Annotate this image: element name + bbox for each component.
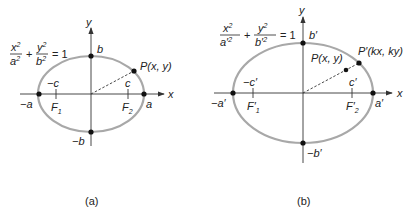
point-b-prime — [300, 40, 305, 45]
caption-b: (b) — [297, 195, 310, 207]
point-b — [88, 53, 93, 58]
figure-b: x2 a′2 + y2 b′2 = 1 y x b′ −b′ a′ −a′ P(… — [211, 4, 403, 207]
label-a-prime: a′ — [375, 97, 384, 109]
label-b: b — [97, 43, 103, 55]
caption-a: (a) — [85, 195, 98, 207]
point-a — [141, 91, 146, 96]
label-a: a — [146, 98, 152, 110]
y-axis-label-a: y — [85, 16, 93, 28]
ellipse-figures: x2 a2 + y2 b2 = 1 y x b −b a −a P(x, y) … — [0, 0, 414, 217]
point-p — [344, 68, 349, 73]
svg-text:+: + — [26, 48, 32, 60]
point-p-prime — [356, 60, 361, 65]
point-neg-a — [36, 91, 41, 96]
label-f2-prime: F′2 — [346, 100, 359, 114]
label-p-prime: P′(kx, ky) — [358, 45, 403, 57]
svg-text:= 1: = 1 — [280, 29, 296, 41]
label-c-prime: c′ — [349, 76, 358, 88]
point-neg-b — [88, 129, 93, 134]
point-a-prime — [370, 90, 375, 95]
label-b-prime: b′ — [309, 29, 318, 41]
svg-text:= 1: = 1 — [52, 48, 68, 60]
svg-text:b′2: b′2 — [255, 36, 267, 48]
point-neg-b-prime — [300, 140, 305, 145]
label-neg-a: −a — [20, 98, 33, 110]
y-axis-label-b: y — [298, 4, 306, 16]
label-p: P(x, y) — [311, 52, 343, 64]
svg-text:b2: b2 — [36, 55, 46, 67]
label-neg-b-prime: −b′ — [307, 147, 323, 159]
label-f1: F1 — [51, 101, 62, 115]
svg-text:x2: x2 — [10, 41, 21, 53]
svg-text:x2: x2 — [222, 22, 233, 34]
label-neg-c-prime: −c′ — [243, 76, 258, 88]
label-f1-prime: F′1 — [247, 100, 260, 114]
point-p — [131, 68, 136, 73]
label-f2: F2 — [122, 101, 133, 115]
x-axis-label-a: x — [167, 88, 174, 100]
figure-a: x2 a2 + y2 b2 = 1 y x b −b a −a P(x, y) … — [10, 16, 174, 207]
label-p: P(x, y) — [140, 60, 172, 72]
label-neg-c: −c — [47, 77, 59, 89]
svg-text:+: + — [244, 29, 250, 41]
svg-text:y2: y2 — [36, 41, 47, 53]
label-neg-a-prime: −a′ — [211, 97, 227, 109]
x-axis-label-b: x — [396, 87, 403, 99]
label-c: c — [125, 77, 131, 89]
point-neg-a-prime — [230, 90, 235, 95]
label-neg-b: −b — [72, 135, 85, 147]
svg-text:a′2: a′2 — [220, 36, 232, 48]
svg-text:y2: y2 — [257, 22, 268, 34]
svg-text:a2: a2 — [10, 55, 20, 67]
